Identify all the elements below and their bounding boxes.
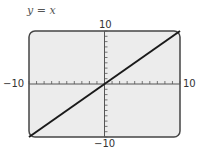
plot-area	[0, 0, 199, 152]
